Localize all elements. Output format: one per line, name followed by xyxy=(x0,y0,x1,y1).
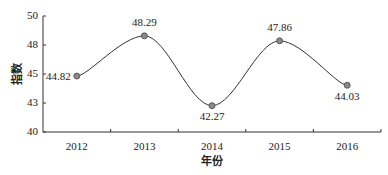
x-axis-title: 年份 xyxy=(201,154,224,168)
x-tick-label: 2016 xyxy=(336,140,359,152)
data-point-marker xyxy=(141,33,147,39)
data-point-marker xyxy=(209,103,215,109)
data-point-label: 48.29 xyxy=(132,16,157,28)
data-markers xyxy=(74,33,350,109)
line-chart: 4043454850 20122013201420152016 44.8248.… xyxy=(0,0,388,175)
y-axis: 4043454850 xyxy=(27,9,46,137)
data-point-label: 47.86 xyxy=(267,21,292,33)
y-tick-label: 50 xyxy=(27,9,39,21)
y-tick-label: 45 xyxy=(27,67,39,79)
series-line xyxy=(77,36,347,106)
data-point-marker xyxy=(74,73,80,79)
y-axis-title: 指数 xyxy=(10,62,24,85)
data-point-label: 44.03 xyxy=(335,90,360,102)
x-tick-label: 2013 xyxy=(133,140,156,152)
data-labels: 44.8248.2942.2747.8644.03 xyxy=(46,16,360,122)
y-tick-label: 48 xyxy=(27,38,39,50)
x-tick-label: 2014 xyxy=(201,140,224,152)
y-tick-label: 43 xyxy=(27,96,39,108)
x-axis: 20122013201420152016 xyxy=(43,129,381,152)
data-point-marker xyxy=(344,82,350,88)
data-point-label: 42.27 xyxy=(200,110,225,122)
data-point-marker xyxy=(277,38,283,44)
data-point-label: 44.82 xyxy=(46,70,71,82)
x-tick-label: 2012 xyxy=(66,140,88,152)
y-tick-label: 40 xyxy=(27,125,39,137)
x-tick-label: 2015 xyxy=(269,140,292,152)
